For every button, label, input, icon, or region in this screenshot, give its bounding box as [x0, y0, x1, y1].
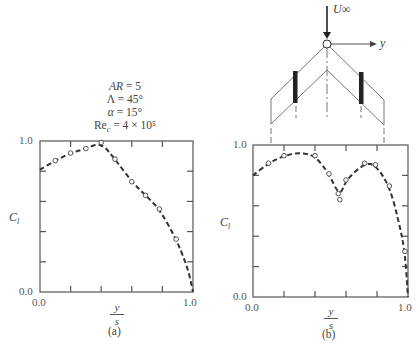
data-point-marker: [84, 146, 89, 151]
data-point-marker: [143, 193, 148, 198]
right-fence: [359, 72, 364, 104]
panel-b-xtick-left: 0.0: [245, 301, 259, 313]
data-point-marker: [113, 157, 118, 162]
data-point-marker: [387, 184, 392, 189]
data-point-marker: [344, 178, 349, 183]
y-axis-arrowhead-icon: [370, 41, 377, 47]
data-point-marker: [336, 191, 341, 196]
panel-a-xlabel: ys: [110, 302, 124, 327]
panel-b-xtick-right: 1.0: [398, 301, 412, 313]
data-point-marker: [362, 161, 367, 166]
freestream-arrowhead-icon: [323, 32, 331, 39]
wing-diagram: [271, 6, 384, 143]
left-fence: [293, 71, 298, 103]
y-axis-label: y: [380, 36, 385, 51]
origin-circle-icon: [323, 40, 331, 48]
data-point-marker: [157, 207, 162, 212]
panel-a-axes: [40, 141, 193, 292]
panel-b-ytick-top: 1.0: [233, 138, 247, 150]
panel-b-caption: (b): [322, 328, 335, 340]
panel-a-caption: (a): [108, 325, 121, 337]
data-point-marker: [338, 197, 343, 202]
data-point-marker: [53, 158, 58, 163]
dashed-fit-line: [40, 145, 193, 292]
panel-a-curve: [40, 140, 193, 292]
data-point-marker: [68, 151, 73, 156]
panel-b-curve: [253, 153, 408, 297]
panel-a-ylabel: Cl: [9, 210, 19, 226]
data-point-marker: [313, 153, 318, 158]
data-point-marker: [282, 153, 287, 158]
data-point-marker: [327, 172, 332, 177]
data-point-marker: [266, 161, 271, 166]
panel-a-ytick-bottom: 0.0: [19, 285, 33, 297]
panel-a-xtick-right: 1.0: [183, 296, 197, 308]
data-point-marker: [174, 237, 179, 242]
panel-a-xtick-left: 0.0: [32, 296, 46, 308]
figure-canvas: [0, 0, 420, 344]
data-point-marker: [373, 162, 378, 167]
data-point-marker: [130, 179, 135, 184]
panel-b-axes: [253, 145, 408, 297]
data-point-marker: [403, 249, 408, 254]
panel-a-ytick-top: 1.0: [19, 134, 33, 146]
freestream-label: U∞: [333, 2, 350, 17]
data-point-marker: [99, 140, 104, 145]
panel-b-ylabel: Cl: [220, 215, 230, 231]
